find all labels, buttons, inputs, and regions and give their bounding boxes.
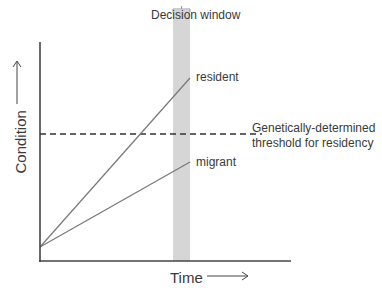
- decision-window-label: Decision window: [151, 8, 240, 22]
- threshold-label-line1: Genetically-determined: [252, 121, 375, 136]
- condition-arrow-icon: [13, 61, 21, 104]
- y-axis-label: Condition: [12, 118, 29, 174]
- migrant-label: migrant: [196, 155, 236, 169]
- migrant-line: [40, 162, 190, 247]
- decision-window-bar: [173, 10, 190, 261]
- resident-label: resident: [196, 70, 239, 84]
- threshold-label-line2: threshold for residency: [252, 136, 375, 151]
- time-arrow-icon: [207, 272, 248, 280]
- x-axis-label: Time: [170, 269, 203, 286]
- threshold-label: Genetically-determined threshold for res…: [252, 121, 375, 151]
- resident-line: [40, 78, 190, 247]
